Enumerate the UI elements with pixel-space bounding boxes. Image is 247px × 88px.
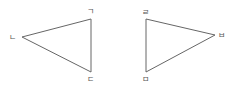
vertex-label-digeut: ㄷ	[87, 75, 94, 84]
vertex-label-nieun: ㄴ	[9, 33, 16, 42]
vertex-label-rieul: ㄹ	[142, 8, 149, 17]
left-triangle: ㄱ ㄴ ㄷ	[9, 7, 94, 84]
right-triangle: ㄹ ㅂ ㅁ	[142, 8, 225, 84]
right-triangle-shape	[146, 19, 215, 72]
vertex-label-bieup: ㅂ	[218, 31, 225, 40]
diagram-canvas: ㄱ ㄴ ㄷ ㄹ ㅂ ㅁ	[0, 0, 247, 88]
vertex-label-mieum: ㅁ	[142, 75, 149, 84]
left-triangle-shape	[22, 19, 91, 72]
vertex-label-giyeok: ㄱ	[87, 7, 94, 16]
